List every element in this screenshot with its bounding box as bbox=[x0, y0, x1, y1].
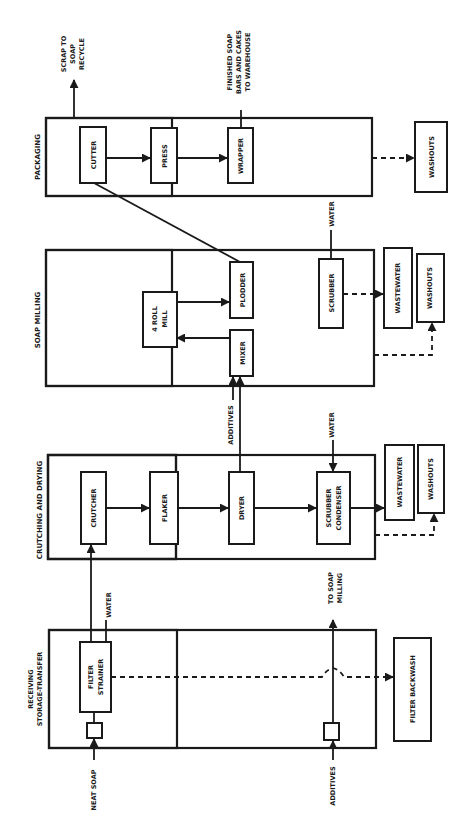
water-crutching-label: WATER bbox=[328, 412, 336, 437]
water-receiving-label: WATER bbox=[105, 592, 113, 617]
packaging-label: PACKAGING bbox=[34, 134, 42, 180]
to-soap-milling-line1: TO SOAP bbox=[327, 572, 335, 604]
four-roll-mill-unit: 4 ROLL MILL bbox=[143, 292, 177, 347]
crutcher-label: CRUTCHER bbox=[90, 488, 98, 527]
neat-soap-label: NEAT SOAP bbox=[90, 769, 98, 810]
receiving-label-line1: RECEIVING bbox=[27, 669, 35, 708]
crutcher-unit: CRUTCHER bbox=[81, 472, 106, 544]
receiving-label-line2: STORAGE-TRANSFER bbox=[36, 652, 44, 727]
plodder-label: PLODDER bbox=[239, 273, 247, 307]
scrap-line2: SOAP bbox=[69, 44, 77, 64]
water-milling-label: WATER bbox=[328, 201, 336, 226]
crutching-drying-label: CRUTCHING AND DRYING bbox=[36, 461, 44, 560]
four-roll-mill-line2: MILL bbox=[161, 310, 169, 327]
press-unit: PRESS bbox=[151, 128, 177, 183]
additives-in-label: ADDITIVES bbox=[329, 766, 337, 806]
wastewater-crutching-unit: WASTEWATER bbox=[385, 445, 414, 520]
scrubber-condenser-line1: SCRUBBER bbox=[325, 488, 333, 527]
filter-backwash-unit: FILTER BACKWASH bbox=[394, 638, 431, 741]
additives-milling-label: ADDITIVES bbox=[227, 405, 235, 445]
soap-milling-label: SOAP MILLING bbox=[34, 292, 42, 349]
wrapper-unit: WRAPPER bbox=[228, 128, 253, 183]
flaker-label: FLAKER bbox=[161, 494, 169, 522]
washouts-crutching-label: WASHOUTS bbox=[427, 458, 435, 500]
washouts-packaging-label: WASHOUTS bbox=[428, 136, 436, 178]
flaker-unit: FLAKER bbox=[150, 472, 178, 544]
four-roll-mill-line1: 4 ROLL bbox=[151, 306, 159, 332]
filter-strainer-unit: FILTER STRAINER bbox=[80, 642, 111, 712]
mixer-unit: MIXER bbox=[230, 330, 253, 376]
neat-soap-tank bbox=[87, 723, 102, 738]
additives-tank bbox=[324, 723, 339, 740]
washouts-milling-label: WASHOUTS bbox=[426, 267, 434, 309]
finished-line3: TO WAREHOUSE bbox=[244, 33, 252, 92]
wastewater-crutching-label: WASTEWATER bbox=[396, 457, 404, 508]
wastewater-milling-label: WASTEWATER bbox=[394, 263, 402, 314]
filter-backwash-label: FILTER BACKWASH bbox=[409, 655, 417, 723]
to-soap-milling-line2: MILLING bbox=[336, 573, 344, 603]
dryer-label: DRYER bbox=[238, 496, 246, 520]
filter-strainer-line1: FILTER bbox=[87, 665, 95, 689]
wrapper-label: WRAPPER bbox=[237, 138, 245, 174]
cutter-unit: CUTTER bbox=[80, 127, 106, 183]
filter-strainer-line2: STRAINER bbox=[97, 659, 105, 695]
washouts-packaging-unit: WASHOUTS bbox=[415, 122, 447, 192]
scrubber-label: SCRUBBER bbox=[328, 273, 336, 312]
scrubber-condenser-line2: CONDENSER bbox=[335, 485, 343, 530]
receiving-storage-transfer-section bbox=[49, 630, 177, 748]
scrubber-condenser-unit: SCRUBBER CONDENSER bbox=[317, 472, 350, 544]
mixer-label: MIXER bbox=[239, 341, 247, 364]
washouts-milling-unit: WASHOUTS bbox=[417, 254, 444, 322]
finished-line1: FINISHED SOAP bbox=[226, 33, 234, 90]
dryer-unit: DRYER bbox=[229, 472, 254, 544]
finished-line2: BARS AND CAKES bbox=[235, 30, 243, 94]
washouts-crutching-unit: WASHOUTS bbox=[418, 445, 444, 513]
soap-process-flow-diagram: PACKAGING SOAP MILLING CRUTCHING AND DRY… bbox=[0, 0, 468, 835]
scrubber-unit: SCRUBBER bbox=[319, 259, 343, 328]
scrap-line3: RECYCLE bbox=[78, 38, 86, 70]
cutter-label: CUTTER bbox=[90, 141, 98, 170]
wastewater-milling-unit: WASTEWATER bbox=[384, 248, 412, 328]
plodder-unit: PLODDER bbox=[230, 262, 253, 318]
scrap-line1: SCRAP TO bbox=[60, 35, 68, 72]
press-label: PRESS bbox=[161, 144, 169, 168]
